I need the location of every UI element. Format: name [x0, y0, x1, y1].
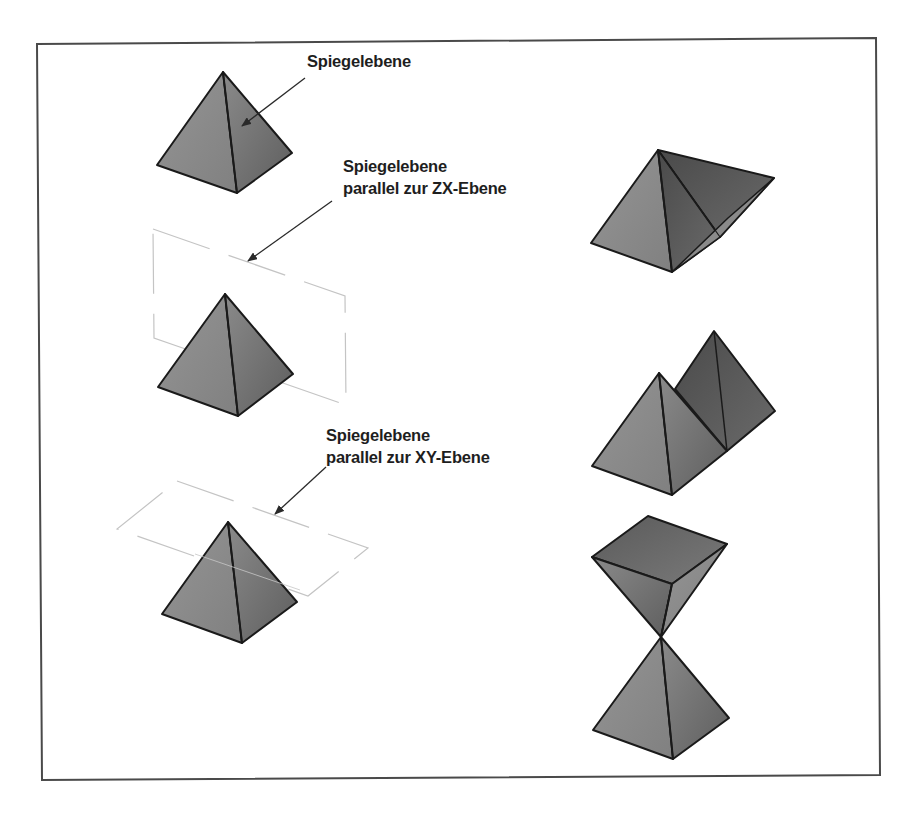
result-xy-mirror: [592, 516, 729, 759]
result-zx-mirror: [592, 331, 775, 495]
arrow-mirror-plane-icon: [242, 78, 305, 126]
label-line: parallel zur ZX-Ebene: [343, 177, 507, 199]
label-line: Spiegelebene: [326, 424, 490, 446]
label-mirror-plane-zx: Spiegelebene parallel zur ZX-Ebene: [343, 155, 507, 199]
arrow-xy-plane-icon: [275, 467, 326, 514]
label-line: Spiegelebene: [307, 50, 411, 72]
result-inclined-mirror: [591, 150, 774, 272]
pyramid-zx-plane: [158, 294, 293, 416]
pyramid-original: [157, 72, 292, 193]
arrow-zx-plane-icon: [248, 201, 332, 261]
label-line: Spiegelebene: [343, 155, 507, 177]
mirror-plane-diagram: [0, 0, 906, 813]
label-line: parallel zur XY-Ebene: [326, 446, 490, 468]
label-mirror-plane-xy: Spiegelebene parallel zur XY-Ebene: [326, 424, 490, 468]
label-mirror-plane: Spiegelebene: [307, 50, 411, 72]
